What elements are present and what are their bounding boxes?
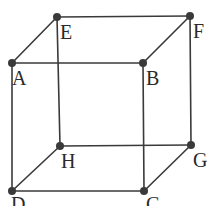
cube-edge-CG	[144, 145, 191, 191]
vertex-label-G: G	[193, 150, 207, 170]
vertex-label-H: H	[61, 151, 75, 171]
cube-vertex-G	[187, 141, 195, 149]
cube-edge-FG	[190, 16, 191, 145]
vertex-label-D: D	[11, 194, 25, 206]
cube-vertex-H	[56, 142, 64, 150]
vertex-label-A: A	[12, 68, 26, 88]
vertex-label-C: C	[146, 194, 159, 206]
cube-edge-BC	[143, 63, 144, 191]
cube-edge-GH	[60, 145, 191, 146]
cube-vertex-B	[139, 59, 147, 67]
vertex-label-E: E	[60, 22, 72, 42]
vertex-label-F: F	[193, 21, 204, 41]
cube-edge-AE	[12, 17, 57, 63]
edge-layer	[12, 16, 191, 191]
cube-diagram: ABCDEFGH	[0, 0, 214, 206]
vertex-label-B: B	[146, 68, 159, 88]
cube-vertex-F	[186, 12, 194, 20]
cube-edge-DH	[12, 146, 60, 191]
cube-edge-BF	[143, 16, 190, 63]
cube-vertex-A	[8, 59, 16, 67]
cube-svg	[0, 0, 214, 206]
cube-vertex-E	[53, 13, 61, 21]
cube-edge-EF	[57, 16, 190, 17]
